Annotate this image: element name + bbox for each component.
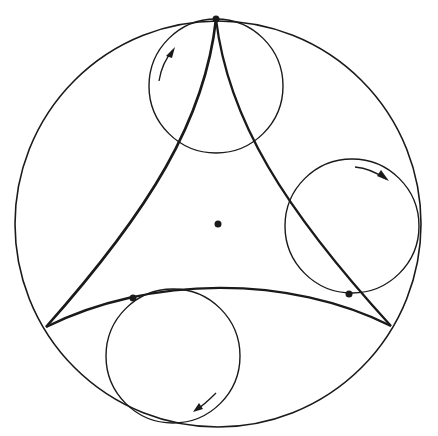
rolling-circle-bottom [106, 289, 240, 423]
rolling-circle-top [149, 19, 283, 153]
left-tangent-point [130, 295, 137, 302]
arrowhead-top-icon [166, 47, 175, 58]
deltoid-right-arc [216, 19, 391, 326]
center-point [215, 221, 222, 228]
arrowhead-right-icon [377, 170, 389, 181]
arrowhead-bottom-icon [193, 403, 203, 412]
deltoid-diagram [0, 0, 438, 436]
right-tangent-point [346, 291, 353, 298]
rolling-circle-right [285, 159, 419, 293]
top-cusp-point [213, 16, 220, 23]
deltoid-left-arc [46, 19, 216, 327]
